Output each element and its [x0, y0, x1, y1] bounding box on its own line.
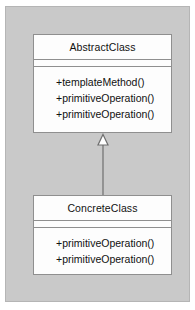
generalization-arrow-icon — [89, 133, 117, 195]
generalization-connector — [89, 133, 117, 195]
operation-row: +primitiveOperation() — [34, 235, 171, 251]
diagram-canvas: AbstractClass +templateMethod() +primiti… — [5, 6, 190, 302]
class-operations-compartment-abstract-class: +templateMethod() +primitiveOperation() … — [34, 67, 171, 122]
operation-row: +primitiveOperation() — [34, 106, 171, 122]
operation-row: +templateMethod() — [34, 74, 171, 90]
class-name-compartment-concrete-class: ConcreteClass — [34, 196, 171, 221]
class-name-concrete-class: ConcreteClass — [67, 203, 137, 214]
class-box-concrete-class[interactable]: ConcreteClass +primitiveOperation() +pri… — [33, 195, 172, 275]
hollow-triangle-arrowhead — [98, 135, 108, 146]
class-operations-compartment-concrete-class: +primitiveOperation() +primitiveOperatio… — [34, 228, 171, 267]
operation-row: +primitiveOperation() — [34, 251, 171, 267]
uml-class-diagram: AbstractClass +templateMethod() +primiti… — [0, 0, 195, 310]
class-box-abstract-class[interactable]: AbstractClass +templateMethod() +primiti… — [33, 34, 172, 133]
operation-row: +primitiveOperation() — [34, 90, 171, 106]
class-name-compartment-abstract-class: AbstractClass — [34, 35, 171, 60]
class-name-abstract-class: AbstractClass — [69, 42, 135, 53]
class-attributes-compartment-abstract-class — [34, 60, 171, 67]
class-attributes-compartment-concrete-class — [34, 221, 171, 228]
